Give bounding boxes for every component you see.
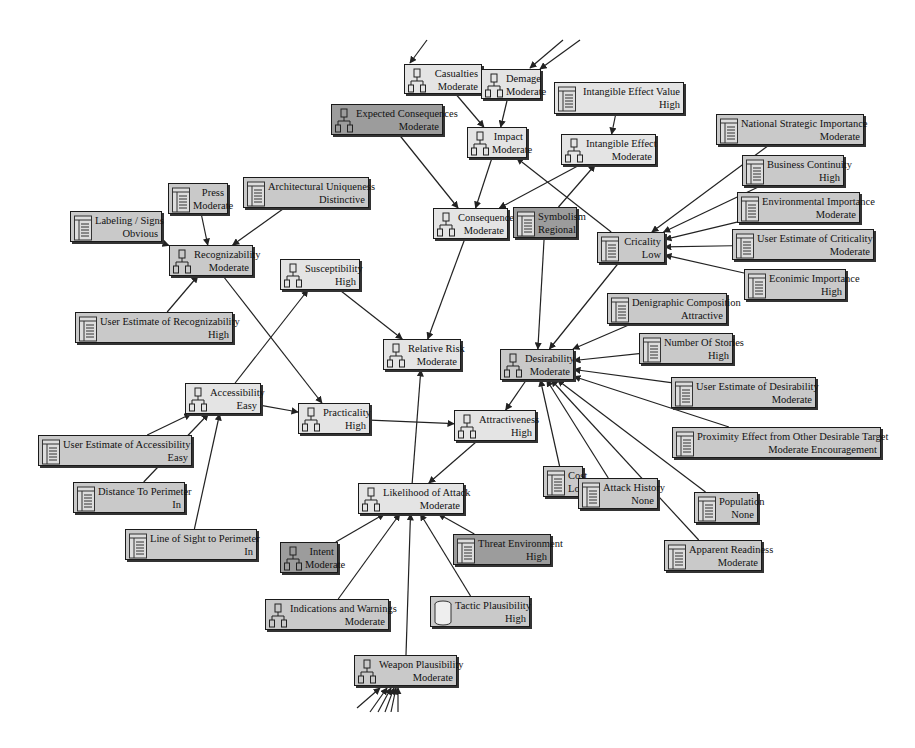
table-icon (79, 316, 97, 342)
cylinder-icon (434, 600, 452, 626)
hierarchy-icon (471, 131, 489, 157)
node-title: User Estimate of Desirability (696, 380, 812, 393)
edge-consequences-to-relative_risk (428, 239, 465, 339)
node-population[interactable]: PopulationNone (694, 492, 758, 523)
edge-desirability-to-attractiveness (506, 380, 527, 410)
node-intangible-effect[interactable]: Intangible EffectModerate (561, 134, 656, 165)
node-practicality[interactable]: PracticalityHigh (298, 403, 370, 434)
node-user-recognizability[interactable]: User Estimate of RecognizabilityHigh (75, 312, 233, 343)
edge-expected_consequences-to-consequences (399, 135, 458, 208)
hierarchy-icon (284, 263, 302, 289)
edge-line_of_sight-to-accessibility (194, 414, 219, 529)
edge-user_desirability-to-desirability (574, 370, 671, 383)
table-icon (129, 533, 147, 559)
node-impact[interactable]: ImpactModerate (467, 127, 527, 158)
node-title: Consequences (458, 211, 504, 224)
node-arch-unique[interactable]: Architectural UniquenessDistinctive (243, 177, 369, 208)
node-indications[interactable]: Indications and WarningsModerate (265, 599, 389, 630)
table-icon (74, 215, 92, 241)
node-value: Moderate (305, 558, 334, 571)
node-title: Tactic Plausibility (455, 599, 526, 612)
node-value: High (100, 328, 229, 341)
node-attractiveness[interactable]: AttractivenessHigh (454, 410, 536, 441)
node-value: Moderate (757, 245, 870, 258)
node-title: Environmental Importance (762, 195, 856, 208)
edge-casualties-to-impact (456, 94, 484, 127)
node-consequences[interactable]: ConsequencesModerate (433, 208, 508, 239)
node-casualties[interactable]: CasualtiesModerate (404, 64, 482, 94)
hierarchy-icon (437, 212, 455, 238)
node-symbolism[interactable]: SymbolismRegional (513, 207, 577, 238)
node-desirability[interactable]: DesirabilityModerate (500, 349, 574, 380)
node-title: Casualties (429, 67, 478, 80)
edge-damage-to-impact (501, 99, 508, 127)
edge-accessibility-to-practicality (261, 405, 298, 412)
table-icon (42, 439, 60, 465)
node-title: Press (193, 186, 224, 199)
node-value: High (479, 426, 532, 439)
edge-impact-to-consequences (476, 158, 492, 208)
hierarchy-icon (504, 353, 522, 379)
node-tactic[interactable]: Tactic PlausibilityHigh (430, 596, 530, 627)
table-icon (746, 159, 764, 185)
node-title: Likelihood of Attack (383, 486, 460, 499)
node-expected-consequences[interactable]: Expected ConsequencesModerate (331, 104, 443, 135)
node-user-criticality[interactable]: User Estimate of CriticalityModerate (732, 229, 874, 260)
node-cost[interactable]: CostLow (543, 466, 583, 497)
node-user-desirability[interactable]: User Estimate of DesirabilityModerate (671, 377, 816, 408)
node-value: Moderate Encouragement (697, 443, 877, 456)
node-value: Moderate (194, 261, 249, 274)
node-weapon[interactable]: Weapon PlausibilityModerate (354, 655, 457, 686)
node-title: Proximity Effect from Other Desirable Ta… (697, 430, 877, 443)
node-value: Regional (538, 223, 573, 236)
node-damage[interactable]: DemageModerate (481, 69, 541, 99)
edge-offscreen (540, 40, 580, 69)
node-value: In (150, 545, 253, 558)
node-likelihood[interactable]: Likelihood of AttackModerate (358, 483, 464, 514)
node-press[interactable]: PressModerate (168, 183, 228, 214)
edge-user_criticality-to-criticality (665, 246, 732, 247)
edge-attractiveness-to-likelihood (429, 441, 477, 483)
node-value: Moderate (586, 150, 652, 163)
node-demographic[interactable]: Denigraphic CompositionAttractive (607, 293, 727, 324)
edge-likelihood-to-relative_risk (412, 370, 421, 483)
node-value: Moderate (492, 143, 523, 156)
table-icon (748, 273, 766, 299)
node-recognizability[interactable]: RecognizabilityModerate (169, 245, 253, 276)
node-user-accessibility[interactable]: User Estimate of AccessibilityEasy (38, 435, 192, 466)
edge-offscreen (391, 688, 396, 712)
edge-threat_env-to-likelihood (439, 514, 475, 534)
node-title: Distance To Perimeter (98, 485, 181, 498)
edge-attack_history-to-desirability (547, 380, 609, 478)
node-title: Recognizability (194, 248, 249, 261)
node-economic[interactable]: Econimic ImportanceHigh (744, 269, 846, 300)
node-intangible-value[interactable]: Intangible Effect ValueHigh (554, 82, 684, 114)
node-line-of-sight[interactable]: Line of Sight to PerimeterIn (125, 529, 257, 560)
table-icon (676, 431, 694, 457)
node-susceptibility[interactable]: SusceptibilityHigh (280, 259, 360, 290)
table-icon (558, 86, 576, 112)
node-criticality[interactable]: CricalityLow (597, 232, 665, 263)
node-distance-perimeter[interactable]: Distance To PerimeterIn (73, 482, 185, 513)
table-icon (247, 181, 265, 207)
node-business-continuity[interactable]: Business ContinuityHigh (742, 155, 844, 186)
node-national-strategic[interactable]: National Strategic ImportanceModerate (716, 114, 864, 145)
edge-user_recognizability-to-recognizability (167, 276, 198, 312)
node-title: Intent (305, 545, 334, 558)
node-accessibility[interactable]: AccessibilityEasy (185, 383, 261, 414)
edge-intent-to-likelihood (336, 514, 384, 542)
edge-press-to-recognizability (201, 214, 208, 245)
node-threat-env[interactable]: Threat EnvironmentHigh (453, 534, 551, 565)
edge-offscreen (378, 688, 391, 712)
table-icon (698, 496, 716, 522)
node-title: Susceptibility (305, 262, 356, 275)
node-num-stories[interactable]: Number Of StoriesHigh (639, 333, 733, 364)
node-labeling[interactable]: Labeling / SignsObvious (70, 211, 162, 242)
node-relative-risk[interactable]: Relative RiskModerate (383, 339, 461, 370)
node-environmental[interactable]: Environmental ImportanceModerate (737, 192, 860, 223)
node-proximity[interactable]: Proximity Effect from Other Desirable Ta… (672, 427, 881, 458)
node-value: Easy (63, 451, 188, 464)
node-attack-history[interactable]: Attack HistoryNone (578, 478, 658, 509)
node-intent[interactable]: IntentModerate (280, 542, 338, 573)
node-apparent-readiness[interactable]: Apparent ReadinessModerate (664, 540, 762, 571)
